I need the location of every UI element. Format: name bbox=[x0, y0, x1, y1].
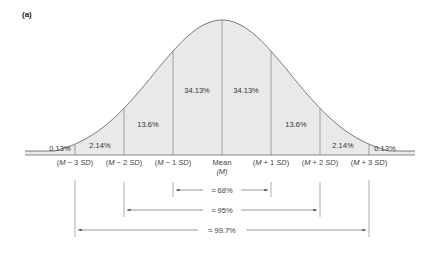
mean-symbol: (M) bbox=[216, 167, 228, 176]
range-label: ≈ 99.7% bbox=[208, 226, 236, 235]
region-label: 2.14% bbox=[89, 141, 111, 150]
sd-tick-label: (M − 3 SD) bbox=[57, 158, 94, 167]
axis-tick-labels: (M − 3 SD)(M − 2 SD)(M − 1 SD)Mean(M)(M … bbox=[57, 158, 388, 176]
range-arrows: ≈ 68%≈ 95%≈ 99.7% bbox=[75, 180, 369, 237]
sd-tick-label: (M − 1 SD) bbox=[155, 158, 192, 167]
sd-tick-label: (M − 2 SD) bbox=[106, 158, 143, 167]
region-label: 0.13% bbox=[374, 144, 396, 153]
range-label: ≈ 68% bbox=[211, 186, 233, 195]
region-label: 0.13% bbox=[49, 144, 71, 153]
region-label: 2.14% bbox=[332, 141, 354, 150]
region-label: 34.13% bbox=[184, 86, 210, 95]
normal-distribution-diagram: 0.13%2.14%13.6%34.13%34.13%13.6%2.14%0.1… bbox=[0, 0, 441, 260]
sd-tick-label: (M + 1 SD) bbox=[253, 158, 290, 167]
sd-tick-label: (M + 3 SD) bbox=[351, 158, 388, 167]
bell-curve-area bbox=[25, 20, 415, 155]
region-label: 13.6% bbox=[137, 120, 159, 129]
region-label: 13.6% bbox=[285, 120, 307, 129]
range-label: ≈ 95% bbox=[211, 206, 233, 215]
mean-label: Mean bbox=[213, 158, 232, 167]
sd-tick-label: (M + 2 SD) bbox=[302, 158, 339, 167]
region-label: 34.13% bbox=[233, 86, 259, 95]
